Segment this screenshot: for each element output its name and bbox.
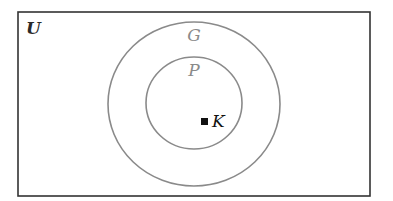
element-k-marker-icon	[201, 118, 208, 125]
set-p-label: P	[187, 60, 200, 80]
universe-label: U	[26, 18, 42, 38]
venn-diagram: U G P K	[0, 0, 393, 201]
set-g-label: G	[187, 25, 201, 45]
element-k-label: K	[211, 111, 226, 131]
